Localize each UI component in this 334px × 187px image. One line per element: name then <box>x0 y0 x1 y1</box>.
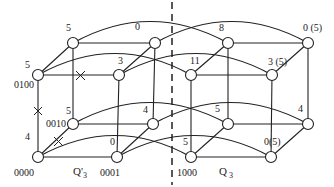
address-labels: 0100 0010 0000 0001 1000 <box>14 79 197 178</box>
svg-text:4: 4 <box>298 103 303 114</box>
node <box>266 152 277 163</box>
subcube-labels: Q'3 Q3 <box>73 165 233 180</box>
hypercube-diagram: 5 0 5 3 5 4 4 0 8 0 (5) 11 3 (5) 5 4 5 0… <box>0 0 334 187</box>
svg-text:11: 11 <box>190 55 200 66</box>
node <box>267 70 278 81</box>
node <box>303 119 314 130</box>
svg-text:0: 0 <box>110 136 115 147</box>
svg-text:4: 4 <box>25 131 30 142</box>
node <box>150 38 161 49</box>
node <box>303 38 314 49</box>
label-0000: 0000 <box>14 167 34 178</box>
svg-text:5: 5 <box>215 103 220 114</box>
svg-text:5: 5 <box>66 22 71 33</box>
svg-text:3 (5): 3 (5) <box>268 56 287 68</box>
svg-text:5: 5 <box>25 59 30 70</box>
label-0001: 0001 <box>100 167 120 178</box>
label-1000: 1000 <box>177 167 197 178</box>
node-0000 <box>33 152 44 163</box>
svg-text:0 (5): 0 (5) <box>303 22 322 34</box>
svg-text:0: 0 <box>135 21 140 32</box>
node <box>114 70 125 81</box>
node <box>148 119 159 130</box>
q3-edges <box>191 43 308 157</box>
node-1000 <box>186 152 197 163</box>
q3-prime-edges <box>38 43 155 157</box>
faulty-link-x-marks <box>34 71 85 146</box>
node <box>186 70 197 81</box>
svg-text:3: 3 <box>118 55 123 66</box>
svg-text:0(5): 0(5) <box>264 136 281 148</box>
subcube-label-q3-prime: Q'3 <box>73 165 87 180</box>
node <box>223 119 234 130</box>
svg-text:5: 5 <box>183 136 188 147</box>
node-0010 <box>68 119 79 130</box>
svg-text:4: 4 <box>143 104 148 115</box>
node <box>68 38 79 49</box>
svg-text:8: 8 <box>219 22 224 33</box>
node-0001 <box>112 152 123 163</box>
node-0100 <box>33 70 44 81</box>
subcube-label-q3: Q3 <box>219 165 233 180</box>
label-0100: 0100 <box>14 79 34 90</box>
svg-text:5: 5 <box>66 105 71 116</box>
node <box>223 38 234 49</box>
label-0010: 0010 <box>46 118 66 129</box>
